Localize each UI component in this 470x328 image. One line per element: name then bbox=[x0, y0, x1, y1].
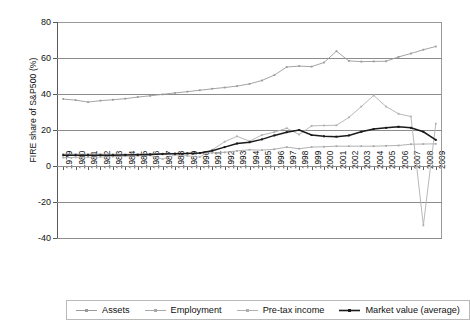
data-point bbox=[360, 131, 362, 133]
data-point bbox=[211, 88, 213, 90]
data-point bbox=[112, 154, 114, 156]
data-point bbox=[273, 74, 275, 76]
data-point bbox=[162, 153, 164, 155]
data-point bbox=[124, 98, 126, 100]
data-point bbox=[62, 157, 64, 159]
data-point bbox=[273, 134, 275, 136]
data-point bbox=[348, 117, 350, 119]
data-point bbox=[360, 145, 362, 147]
data-point bbox=[162, 93, 164, 95]
data-point bbox=[410, 143, 412, 145]
data-point bbox=[211, 150, 213, 152]
data-point bbox=[99, 154, 101, 156]
data-point bbox=[286, 127, 288, 129]
data-point bbox=[62, 154, 64, 156]
series-line-pre-tax-income bbox=[63, 95, 436, 225]
data-point bbox=[385, 127, 387, 129]
data-point bbox=[249, 83, 251, 85]
chart-legend: AssetsEmploymentPre-tax incomeMarket val… bbox=[66, 300, 470, 320]
data-point bbox=[124, 154, 126, 156]
data-point bbox=[100, 156, 102, 158]
data-point bbox=[261, 138, 263, 140]
data-point bbox=[311, 134, 313, 136]
data-point bbox=[335, 136, 337, 138]
data-point bbox=[311, 125, 313, 127]
line-chart: FIRE share of S&P500 (%) 806040200-20-40… bbox=[0, 0, 470, 328]
data-point bbox=[435, 46, 437, 48]
data-point bbox=[323, 125, 325, 127]
legend-marker-icon bbox=[339, 306, 360, 315]
legend-label: Market value (average) bbox=[365, 305, 459, 315]
data-point bbox=[249, 149, 251, 151]
plot-area bbox=[57, 22, 442, 238]
data-point bbox=[373, 128, 375, 130]
legend-item-pre-tax-income[interactable]: Pre-tax income bbox=[237, 305, 325, 315]
data-point bbox=[373, 145, 375, 147]
legend-label: Employment bbox=[171, 305, 222, 315]
data-point bbox=[323, 62, 325, 64]
data-point bbox=[273, 131, 275, 133]
data-point bbox=[422, 225, 424, 227]
data-point bbox=[224, 87, 226, 89]
data-point bbox=[398, 126, 400, 128]
data-point bbox=[149, 153, 151, 155]
data-point bbox=[348, 60, 350, 62]
data-point bbox=[75, 154, 77, 156]
data-point bbox=[373, 95, 375, 97]
data-point bbox=[348, 134, 350, 136]
data-point bbox=[100, 100, 102, 102]
data-point bbox=[174, 92, 176, 94]
data-point bbox=[385, 145, 387, 147]
data-point bbox=[398, 113, 400, 115]
data-point bbox=[398, 56, 400, 58]
data-point bbox=[373, 61, 375, 63]
data-point bbox=[186, 152, 188, 154]
data-point bbox=[360, 61, 362, 63]
data-point bbox=[199, 152, 201, 154]
data-point bbox=[261, 149, 263, 151]
y-tick-label: 0 bbox=[25, 162, 51, 171]
y-tick-label: 60 bbox=[25, 54, 51, 63]
data-point bbox=[174, 153, 176, 155]
data-point bbox=[249, 141, 251, 143]
data-point bbox=[410, 53, 412, 55]
data-point bbox=[236, 150, 238, 152]
data-point bbox=[435, 123, 437, 125]
data-point bbox=[286, 131, 288, 133]
legend-marker-icon bbox=[76, 306, 97, 315]
data-point bbox=[385, 106, 387, 108]
y-axis-title: FIRE share of S&P500 (%) bbox=[28, 20, 38, 200]
legend-item-assets[interactable]: Assets bbox=[76, 305, 130, 315]
data-point bbox=[199, 89, 201, 91]
data-point bbox=[360, 106, 362, 108]
data-point bbox=[298, 134, 300, 136]
data-point bbox=[385, 60, 387, 62]
y-tick-label: -20 bbox=[25, 198, 51, 207]
y-tick-label: 40 bbox=[25, 90, 51, 99]
data-point bbox=[224, 141, 226, 143]
data-point bbox=[261, 134, 263, 136]
data-point bbox=[298, 129, 300, 131]
data-point bbox=[224, 151, 226, 153]
series-lines bbox=[57, 22, 442, 238]
data-point bbox=[311, 66, 313, 68]
data-point bbox=[187, 91, 189, 93]
data-point bbox=[137, 154, 139, 156]
legend-item-market-value-average[interactable]: Market value (average) bbox=[339, 305, 459, 315]
data-point bbox=[410, 116, 412, 118]
data-point bbox=[286, 66, 288, 68]
legend-label: Pre-tax income bbox=[263, 305, 325, 315]
data-point bbox=[422, 143, 424, 145]
legend-label: Assets bbox=[102, 305, 130, 315]
data-point bbox=[261, 80, 263, 82]
data-point bbox=[298, 65, 300, 67]
data-point bbox=[236, 143, 238, 145]
data-point bbox=[87, 154, 89, 156]
data-point bbox=[323, 146, 325, 148]
data-point bbox=[422, 49, 424, 51]
data-point bbox=[236, 135, 238, 137]
data-point bbox=[336, 50, 338, 52]
data-point bbox=[137, 96, 139, 98]
data-point bbox=[422, 131, 424, 133]
legend-item-employment[interactable]: Employment bbox=[145, 305, 222, 315]
